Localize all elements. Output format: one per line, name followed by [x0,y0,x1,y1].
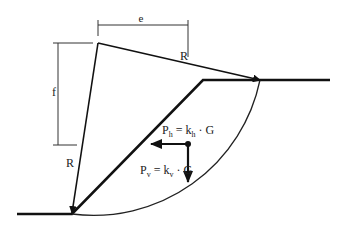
dimension-e [98,20,188,57]
label-ph: Ph = kh · G [162,123,214,139]
label-e: e [139,12,144,24]
slope-profile [17,80,330,214]
label-radius-top: R [180,49,188,63]
slip-circle-arc [72,80,260,215]
radius-line-to-crest [98,43,260,80]
label-f: f [52,85,56,99]
label-pv: Pv = kv · G [140,163,192,179]
dimension-f [53,43,93,145]
slope-stability-diagram: e f R R Ph = kh · G Pv = kv · G [0,0,347,226]
radius-line-to-toe [72,43,98,213]
label-radius-left: R [66,156,74,170]
